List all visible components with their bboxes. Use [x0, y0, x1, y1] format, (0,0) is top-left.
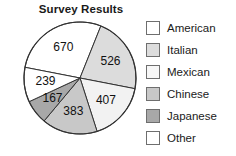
- legend-item[interactable]: Mexican: [146, 61, 234, 83]
- legend-swatch-icon: [146, 131, 160, 145]
- pie-slice-value-label: 526: [100, 54, 120, 68]
- legend-item-label: Mexican: [167, 65, 210, 79]
- legend-swatch-icon: [146, 21, 160, 35]
- legend-item[interactable]: Japanese: [146, 105, 234, 127]
- legend-item[interactable]: Chinese: [146, 83, 234, 105]
- pie-slice-value-label: 167: [42, 91, 62, 105]
- pie-slice-value-label: 239: [36, 74, 56, 88]
- pie-svg: 670526407383167239: [22, 20, 138, 136]
- legend-swatch-icon: [146, 109, 160, 123]
- pie-slice-value-label: 383: [63, 104, 83, 118]
- pie-chart-plot-area: 670526407383167239: [22, 20, 138, 136]
- legend-item-label: American: [167, 21, 216, 35]
- pie-slice-value-label: 670: [53, 40, 73, 54]
- legend-swatch-icon: [146, 65, 160, 79]
- legend-item-label: Chinese: [167, 87, 209, 101]
- legend-item-label: Japanese: [167, 109, 217, 123]
- legend-swatch-icon: [146, 43, 160, 57]
- pie-slice-value-label: 407: [96, 93, 116, 107]
- legend-item-label: Italian: [167, 43, 198, 57]
- legend-item[interactable]: American: [146, 17, 234, 39]
- pie-chart-figure: Survey Results 670526407383167239 Americ…: [0, 0, 236, 156]
- legend-item[interactable]: Other: [146, 127, 234, 149]
- legend-item[interactable]: Italian: [146, 39, 234, 61]
- chart-title: Survey Results: [16, 3, 146, 16]
- legend-swatch-icon: [146, 87, 160, 101]
- legend-item-label: Other: [167, 131, 196, 145]
- chart-legend: AmericanItalianMexicanChineseJapaneseOth…: [146, 17, 234, 149]
